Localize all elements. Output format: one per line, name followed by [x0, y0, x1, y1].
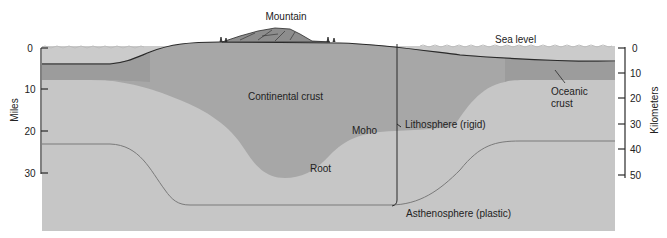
- right-depth-axis: 0 10 20 30 40 50 Kilometers: [618, 43, 660, 181]
- left-axis-title: Miles: [9, 98, 20, 121]
- right-tick-0: 0: [632, 43, 638, 54]
- left-tick-20: 20: [24, 126, 36, 137]
- label-mountain: Mountain: [265, 11, 306, 22]
- right-tick-20: 20: [630, 93, 642, 104]
- label-oceanic-line1: Oceanic: [551, 86, 588, 97]
- mountain-icon: [220, 28, 335, 42]
- right-tick-40: 40: [630, 144, 642, 155]
- label-continental-crust: Continental crust: [248, 91, 323, 102]
- label-oceanic-line2: crust: [551, 98, 573, 109]
- right-tick-30: 30: [630, 119, 642, 130]
- earth-cross-section-diagram: 0 10 20 30 Miles 0 10 20 30 40 50 Kilome…: [0, 0, 667, 238]
- label-lithosphere: Lithosphere (rigid): [405, 119, 486, 130]
- right-axis-title: Kilometers: [649, 86, 660, 133]
- right-tick-10: 10: [630, 68, 642, 79]
- label-sea-level: Sea level: [495, 34, 536, 45]
- label-asthenosphere: Asthenosphere (plastic): [406, 208, 511, 219]
- right-tick-50: 50: [630, 170, 642, 181]
- label-root: Root: [310, 163, 331, 174]
- label-moho: Moho: [352, 125, 377, 136]
- left-tick-0: 0: [27, 43, 33, 54]
- left-tick-10: 10: [24, 84, 36, 95]
- left-tick-30: 30: [24, 168, 36, 179]
